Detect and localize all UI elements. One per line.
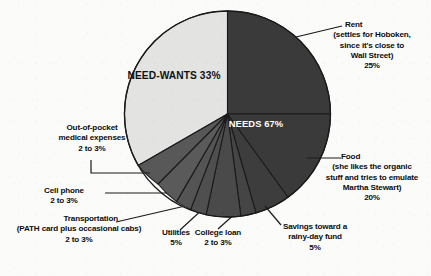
callout-medical-line-2: medical expenses xyxy=(30,133,154,143)
pie-chart-figure: NEED-WANTS 33% NEEDS 67% Rent (settles f… xyxy=(0,0,431,276)
callout-rent-line-4: Wall Street) xyxy=(313,51,431,61)
callout-food-line-2: (she likes the organic xyxy=(313,162,431,172)
callout-rent-line-1: Rent xyxy=(313,20,431,30)
callout-savings: Savings toward a rainy-day fund 5% xyxy=(262,222,368,253)
callout-food-line-1: Food xyxy=(313,152,431,162)
callout-medical-value: 2 to 3% xyxy=(30,144,154,154)
callout-cell-phone-line-1: Cell phone xyxy=(26,186,102,196)
callout-food-value: 20% xyxy=(313,193,431,203)
callout-utilities-value: 5% xyxy=(146,238,206,248)
callout-rent-line-3: since it's close to xyxy=(313,41,431,51)
callout-savings-line-2: rainy-day fund xyxy=(262,232,368,242)
callout-rent-line-2: (settles for Hoboken, xyxy=(313,30,431,40)
callout-utilities: Utilities 5% xyxy=(146,228,206,249)
callout-rent-value: 25% xyxy=(313,61,431,71)
callout-transportation-line-2: (PATH card plus occasional cabs) xyxy=(4,224,154,234)
callout-savings-line-1: Savings toward a xyxy=(262,222,368,232)
pie-label-needs: NEEDS 67% xyxy=(214,118,298,130)
callout-medical: Out-of-pocket medical expenses 2 to 3% xyxy=(30,123,154,154)
pie-label-need-wants: NEED-WANTS 33% xyxy=(110,70,238,83)
callout-food: Food (she likes the organic stuff and tr… xyxy=(313,152,431,203)
callout-rent: Rent (settles for Hoboken, since it's cl… xyxy=(313,20,431,71)
callout-savings-value: 5% xyxy=(262,243,368,253)
callout-cell-phone: Cell phone 2 to 3% xyxy=(26,186,102,207)
callout-utilities-line-1: Utilities xyxy=(146,228,206,238)
pie-label-need-wants-title: NEED-WANTS xyxy=(127,70,196,81)
callout-transportation: Transportation (PATH card plus occasiona… xyxy=(4,214,154,245)
pie-label-needs-title: NEEDS xyxy=(229,118,262,129)
pie-label-needs-value: 67% xyxy=(264,118,283,129)
callout-transportation-line-1: Transportation xyxy=(4,214,154,224)
callout-transportation-value: 2 to 3% xyxy=(4,235,154,245)
callout-medical-line-1: Out-of-pocket xyxy=(30,123,154,133)
pie-label-need-wants-value: 33% xyxy=(200,70,221,81)
callout-cell-phone-value: 2 to 3% xyxy=(26,196,102,206)
callout-food-line-3: stuff and tries to emulate xyxy=(313,173,431,183)
callout-food-line-4: Martha Stewart) xyxy=(313,183,431,193)
